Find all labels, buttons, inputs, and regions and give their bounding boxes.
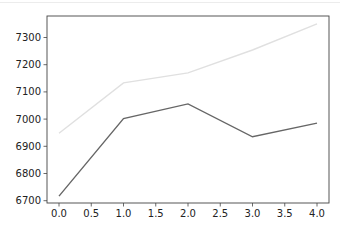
x-tick-label: 0.5 xyxy=(83,208,99,219)
x-tick-label: 1.5 xyxy=(148,208,164,219)
y-tick-label: 7100 xyxy=(16,86,41,97)
y-tick-label: 6900 xyxy=(16,141,41,152)
x-tick-label: 3.0 xyxy=(245,208,261,219)
y-tick-label: 7300 xyxy=(16,32,41,43)
x-axis: 0.00.51.01.52.02.53.03.54.0 xyxy=(51,203,325,219)
x-tick-label: 2.0 xyxy=(180,208,196,219)
line-series-dark xyxy=(59,104,317,196)
y-tick-label: 7000 xyxy=(16,114,41,125)
y-tick-label: 6700 xyxy=(16,195,41,206)
y-tick-label: 6800 xyxy=(16,168,41,179)
x-tick-label: 4.0 xyxy=(309,208,325,219)
x-tick-label: 2.5 xyxy=(212,208,228,219)
y-axis: 6700680069007000710072007300 xyxy=(16,32,47,206)
x-tick-label: 0.0 xyxy=(51,208,67,219)
x-tick-label: 3.5 xyxy=(277,208,293,219)
line-series-light xyxy=(59,24,317,133)
x-tick-label: 1.0 xyxy=(116,208,132,219)
plot-area xyxy=(59,24,317,196)
line-chart: 0.00.51.01.52.02.53.03.54.0 670068006900… xyxy=(0,0,340,232)
y-tick-label: 7200 xyxy=(16,59,41,70)
